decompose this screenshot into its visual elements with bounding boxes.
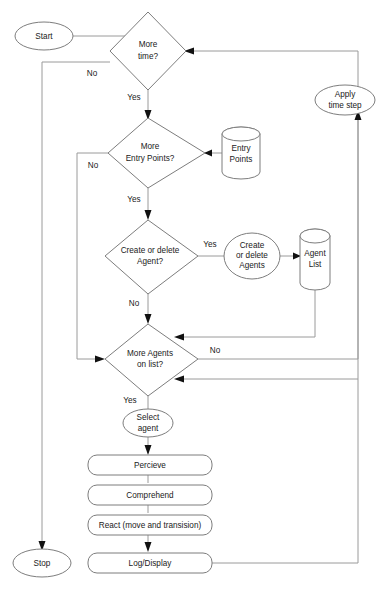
node-more-entry-points-label-2: Entry Points? <box>126 154 175 163</box>
node-select-agent[interactable]: Select agent <box>123 409 173 437</box>
edge-entry-points-store-to-decision <box>204 150 222 157</box>
edge-label-more-entry-points-no: No <box>88 161 99 170</box>
node-start-label: Start <box>35 32 53 41</box>
node-stop-label: Stop <box>34 559 51 568</box>
edge-react-to-log-display <box>145 535 152 552</box>
node-agent-list-label-1: Agent <box>304 249 326 258</box>
node-cda-process-label-1: Create <box>240 241 265 250</box>
edge-to-apply-time-step <box>355 110 362 379</box>
edge-label-more-entry-points-yes: Yes <box>127 195 140 204</box>
edge-label-more-time-yes: Yes <box>127 93 140 102</box>
node-entry-points-label-2: Points <box>230 155 253 164</box>
edge-label-more-time-no: No <box>87 69 98 78</box>
node-start[interactable]: Start <box>15 22 73 50</box>
flowchart-diagram: Start More time? Apply time step More En… <box>0 0 378 592</box>
node-agent-list-store[interactable]: Agent List <box>300 229 330 290</box>
node-create-delete-label-2: Agent? <box>137 257 163 266</box>
node-apply-time-step-label-1: Apply <box>335 90 356 99</box>
node-percieve-label: Percieve <box>134 461 166 470</box>
node-more-agents-label-2: on list? <box>137 360 163 369</box>
node-more-time-label-1: More <box>139 40 158 49</box>
edge-more-entry-points-yes-to-create-delete <box>145 188 152 220</box>
node-select-agent-label-2: agent <box>138 424 159 433</box>
node-more-agents-label-1: More Agents <box>127 349 173 358</box>
node-cda-process-label-3: Agents <box>239 261 265 270</box>
node-agent-list-label-2: List <box>309 260 322 269</box>
node-more-entry-points-label-1: More <box>141 142 160 151</box>
edge-more-time-no-to-stop <box>39 62 111 551</box>
edge-label-create-agent-no: No <box>129 299 140 308</box>
node-percieve[interactable]: Percieve <box>88 455 212 475</box>
edge-create-delete-no-to-more-agents <box>145 294 152 324</box>
edge-agents-process-to-agent-list <box>280 253 301 260</box>
flowchart-canvas: Start More time? Apply time step More En… <box>0 0 378 592</box>
edge-label-more-agents-yes: Yes <box>123 396 136 405</box>
edge-select-agent-to-percieve <box>145 437 152 455</box>
node-more-time-decision[interactable]: More time? <box>110 12 186 90</box>
edge-more-time-yes-to-more-entry-points <box>145 90 152 120</box>
node-create-or-delete-agent-decision[interactable]: Create or delete Agent? <box>105 220 198 294</box>
node-log-display[interactable]: Log/Display <box>88 553 212 573</box>
node-comprehend-label: Comprehend <box>126 491 174 500</box>
node-entry-points-label-1: Entry <box>231 144 251 153</box>
node-comprehend[interactable]: Comprehend <box>88 485 212 505</box>
edge-agent-list-to-more-agents <box>174 290 315 341</box>
edge-label-create-agent-yes: Yes <box>203 240 216 249</box>
edge-label-more-agents-no: No <box>210 346 221 355</box>
node-entry-points-store[interactable]: Entry Points <box>222 127 260 179</box>
node-more-entry-points-decision[interactable]: More Entry Points? <box>108 118 205 188</box>
node-apply-time-step-label-2: time step <box>328 101 362 110</box>
edge-more-entry-points-no-to-more-agents <box>77 153 108 363</box>
node-more-time-label-2: time? <box>138 52 158 61</box>
node-react-label: React (move and transision) <box>99 521 202 530</box>
node-stop[interactable]: Stop <box>13 549 71 577</box>
node-more-agents-on-list-decision[interactable]: More Agents on list? <box>105 324 198 396</box>
node-create-delete-label-1: Create or delete <box>121 246 180 255</box>
node-apply-time-step[interactable]: Apply time step <box>315 85 375 115</box>
node-react[interactable]: React (move and transision) <box>88 515 212 535</box>
node-create-or-delete-agents-process[interactable]: Create or delete Agents <box>224 233 280 279</box>
node-log-display-label: Log/Display <box>129 559 173 568</box>
node-cda-process-label-2: or delete <box>236 251 268 260</box>
node-select-agent-label-1: Select <box>137 413 160 422</box>
